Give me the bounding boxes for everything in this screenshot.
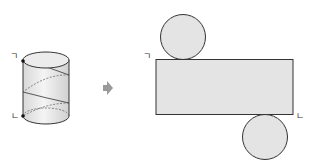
label-cylinder-top: ㄱ [10,52,18,61]
label-net-bottom: ㄴ [296,112,304,121]
cylinder [21,52,69,124]
net-rectangle [156,60,293,115]
net-top-circle [161,15,206,60]
label-net-top: ㄱ [143,52,151,61]
point-top [21,59,25,63]
diagram-canvas [0,0,315,166]
net-bottom-circle [243,115,288,160]
right-arrow-icon [103,81,113,95]
cylinder-net [156,15,293,160]
label-cylinder-bottom: ㄴ [11,112,19,121]
point-bottom [21,114,25,118]
